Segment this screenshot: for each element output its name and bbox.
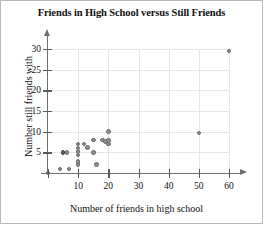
y-tick-label-group: 51015202530 (1, 1, 41, 226)
chart-figure: Friends in High School versus Still Frie… (0, 0, 263, 224)
data-point (91, 138, 96, 143)
y-axis-tick (43, 132, 52, 133)
x-axis-tick (199, 169, 200, 178)
y-axis-line (47, 35, 48, 175)
plot-area (48, 49, 229, 173)
x-axis-tick-label: 20 (104, 181, 114, 191)
x-axis-tick (229, 169, 230, 178)
x-axis-tick-label: 60 (224, 181, 234, 191)
x-axis-tick-label: 40 (164, 181, 174, 191)
x-axis-line (41, 173, 241, 174)
data-point (67, 167, 72, 172)
x-axis-title: Number of friends in high school (21, 203, 252, 214)
data-point (65, 150, 70, 155)
y-axis-tick-label: 5 (36, 147, 41, 157)
y-axis-tick (43, 152, 52, 153)
gridline-horizontal (48, 49, 229, 50)
y-axis-title: Number still friends with (23, 32, 34, 182)
data-point (106, 129, 111, 134)
gridline-horizontal (48, 111, 229, 112)
x-axis-tick (78, 169, 79, 178)
y-axis-tick (43, 70, 52, 71)
x-axis-tick (108, 169, 109, 178)
x-axis-tick-label: 30 (134, 181, 144, 191)
x-axis-arrow-icon (240, 169, 247, 175)
y-axis-tick (43, 49, 52, 50)
x-axis-tick-label: 50 (194, 181, 204, 191)
y-axis-tick (43, 90, 52, 91)
data-point (58, 167, 63, 172)
x-axis-tick (48, 169, 49, 178)
data-point (85, 145, 90, 150)
data-point (76, 142, 81, 147)
x-axis-tick-label: 10 (73, 181, 83, 191)
x-axis-tick (169, 169, 170, 178)
gridline-horizontal (48, 70, 229, 71)
data-point (197, 131, 202, 136)
data-point (91, 150, 96, 155)
x-axis-tick (139, 169, 140, 178)
gridline-horizontal (48, 90, 229, 91)
data-point (94, 162, 99, 167)
gridline-horizontal (48, 132, 229, 133)
y-axis-tick (43, 111, 52, 112)
gridline-vertical (229, 49, 230, 173)
y-axis-arrow-icon (44, 29, 50, 36)
data-point (106, 138, 111, 143)
data-point (227, 49, 232, 54)
